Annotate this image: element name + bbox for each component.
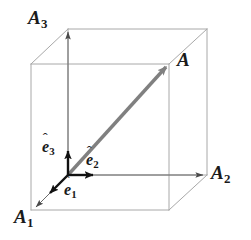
label-vector-a-base: A xyxy=(177,49,190,70)
label-unit-e3: ˆe3 xyxy=(42,139,55,157)
label-unit-e3-hatwrap: ˆe xyxy=(42,139,49,155)
label-axis-a2: A2 xyxy=(211,163,230,186)
label-unit-e3-sub: 3 xyxy=(49,145,54,157)
label-axis-a1: A1 xyxy=(14,207,33,230)
figure-canvas xyxy=(0,0,251,240)
label-axis-a3-base: A xyxy=(28,7,41,28)
hat-accent-icon: ˆ xyxy=(43,131,48,146)
vector-cube-figure: A3 A A2 A1 ˆe3 ˆe2 ˆe1 xyxy=(0,0,251,240)
label-unit-e1-hatwrap: ˆe xyxy=(64,182,71,198)
label-axis-a2-base: A xyxy=(211,162,224,183)
label-unit-e2: ˆe2 xyxy=(86,152,99,170)
label-axis-a3: A3 xyxy=(28,8,47,31)
hat-accent-icon: ˆ xyxy=(65,174,70,189)
label-axis-a1-sub: 1 xyxy=(27,215,33,230)
vector-a-arrow xyxy=(68,67,166,175)
cube-edge-depth-top-left xyxy=(31,29,68,64)
cube-edge-depth-bottom-right xyxy=(169,175,207,210)
label-axis-a3-sub: 3 xyxy=(41,16,47,31)
label-unit-e1-sub: 1 xyxy=(71,188,76,200)
label-unit-e2-sub: 2 xyxy=(93,158,98,170)
label-unit-e2-hatwrap: ˆe xyxy=(86,152,93,168)
label-axis-a1-base: A xyxy=(14,206,27,227)
hat-accent-icon: ˆ xyxy=(87,144,92,159)
label-axis-a2-sub: 2 xyxy=(224,171,230,186)
label-vector-a: A xyxy=(177,50,190,69)
label-unit-e1: ˆe1 xyxy=(64,182,77,200)
